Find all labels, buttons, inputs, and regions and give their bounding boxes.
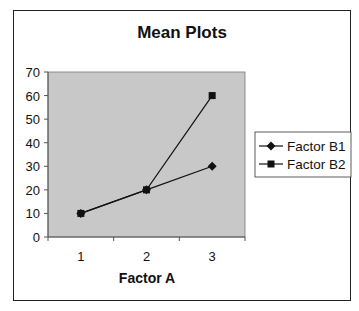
mean-plots-chart: Mean Plots 010203040506070 123 Factor A … — [0, 0, 359, 311]
data-point — [77, 210, 84, 217]
legend-label: Factor B1 — [287, 139, 346, 154]
legend: Factor B1Factor B2 — [255, 132, 351, 177]
y-tick-label: 10 — [26, 206, 40, 221]
legend-marker — [268, 161, 275, 168]
x-tick-label: 2 — [143, 249, 150, 264]
data-point — [209, 92, 216, 99]
y-tick-label: 60 — [26, 89, 40, 104]
y-tick-label: 0 — [33, 230, 40, 245]
data-point — [143, 186, 150, 193]
y-tick-label: 20 — [26, 183, 40, 198]
y-tick-label: 40 — [26, 136, 40, 151]
y-tick-label: 50 — [26, 112, 40, 127]
y-tick-label: 30 — [26, 159, 40, 174]
chart-title: Mean Plots — [137, 23, 227, 42]
x-tick-label: 3 — [209, 249, 216, 264]
y-tick-label: 70 — [26, 65, 40, 80]
x-axis-label: Factor A — [119, 270, 175, 286]
x-tick-label: 1 — [77, 249, 84, 264]
legend-label: Factor B2 — [287, 157, 346, 172]
